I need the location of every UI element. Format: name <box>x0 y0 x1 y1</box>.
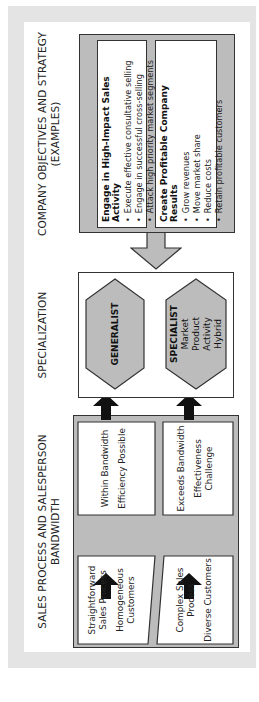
simple-sales-input-cell: Straightforward Sales Process Homogeneou… <box>78 556 152 644</box>
objective-item: Reduce costs <box>203 46 214 222</box>
specialization-heading: SPECIALIZATION <box>36 272 49 398</box>
objectives-heading-line1: COMPANY OBJECTIVES AND STRATEGY <box>36 26 49 242</box>
complex-sales-process-text: Complex Sales Process <box>175 556 197 644</box>
specialist-type-market: Market <box>180 305 191 363</box>
sales-heading: SALES PROCESS AND SALESPERSON BANDWIDTH <box>36 415 62 648</box>
specialist-hexagon: SPECIALIST Market Product Activity Hybri… <box>165 278 227 390</box>
complex-sales-input-cell: Complex Sales Process Diverse Customers <box>162 556 232 644</box>
specialist-labels: SPECIALIST Market Product Activity Hybri… <box>169 305 224 363</box>
generalist-label: GENERALIST <box>110 303 121 366</box>
specialist-type-activity: Activity <box>202 305 213 363</box>
diagram-canvas: SALES PROCESS AND SALESPERSON BANDWIDTH … <box>0 0 259 702</box>
objectives-heading: COMPANY OBJECTIVES AND STRATEGY (EXAMPLE… <box>36 26 62 242</box>
diverse-customers-text: Diverse Customers <box>203 558 214 642</box>
simple-sales-process-text: Straightforward Sales Process <box>87 556 109 644</box>
objective-item: Engage in successful cross-selling <box>134 46 145 222</box>
objective-title: Engage in High-Impact Sales Activity <box>101 46 121 222</box>
objective-card-2: Create Profitable Company Results Grow r… <box>155 40 217 228</box>
specialist-type-hybrid: Hybrid <box>213 305 224 363</box>
efficiency-possible-text: Efficiency Possible <box>117 428 128 509</box>
simple-sales-outcome-cell: Within Bandwidth Efficiency Possible <box>78 422 155 515</box>
objective-title: Create Profitable Company Results <box>159 46 179 222</box>
objective-item: Retain profitable customers <box>214 46 225 222</box>
objectives-heading-line2: (EXAMPLES) <box>49 26 62 242</box>
exceeds-bandwidth-text: Exceeds Bandwidth <box>176 425 187 511</box>
objective-card-1: Engage in High-Impact Sales Activity Exe… <box>97 40 147 228</box>
specialist-type-product: Product <box>191 305 202 363</box>
objective-item: Grow revenues <box>181 46 192 222</box>
within-bandwidth-text: Within Bandwidth <box>100 430 111 508</box>
specialist-title: SPECIALIST <box>169 305 180 363</box>
homogeneous-customers-text: Homogeneous Customers <box>115 556 137 644</box>
objective-item: Execute effective consultative selling <box>123 46 134 222</box>
gray-arrow-left-icon <box>130 230 182 270</box>
complex-sales-outcome-cell: Exceeds Bandwidth Effectiveness Challeng… <box>163 422 233 515</box>
objective-item: Move market share <box>192 46 203 222</box>
generalist-hexagon: GENERALIST <box>85 278 145 390</box>
effectiveness-challenge-text: Effectiveness Challenge <box>193 422 215 515</box>
